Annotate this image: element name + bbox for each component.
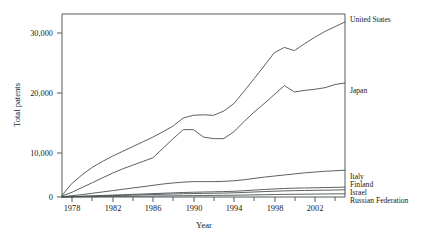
x-tick-label-1994: 1994: [226, 204, 243, 213]
y-tick-label-0: 0: [49, 193, 53, 202]
x-tick-label-1990: 1990: [186, 204, 203, 213]
series-line-united-states: [62, 22, 345, 195]
series-label-japan: Japan: [350, 86, 367, 95]
y-tick-label-10000: 10,000: [30, 149, 53, 158]
y-axis-ticks: [57, 33, 62, 197]
x-axis-ticks: [72, 197, 335, 202]
series-line-japan: [62, 83, 345, 196]
series-line-italy: [62, 170, 345, 196]
plot-frame: [62, 14, 345, 197]
x-axis-title: Year: [196, 220, 212, 230]
line-chart-svg: 30,000 20,000 10,000 0 Total patents 197…: [0, 0, 431, 244]
y-tick-label-30000: 30,000: [30, 29, 53, 38]
y-tick-label-20000: 20,000: [30, 89, 53, 98]
series-group: [62, 22, 345, 197]
x-tick-label-1978: 1978: [64, 204, 81, 213]
x-tick-label-1982: 1982: [105, 204, 122, 213]
x-tick-label-1986: 1986: [145, 204, 162, 213]
x-tick-label-1998: 1998: [267, 204, 284, 213]
x-tick-label-2002: 2002: [307, 204, 324, 213]
y-axis-title: Total patents: [12, 82, 22, 127]
chart-figure: 30,000 20,000 10,000 0 Total patents 197…: [0, 0, 431, 244]
series-label-russian-federation: Russian Federation: [350, 196, 409, 205]
series-label-united-states: United States: [350, 15, 391, 24]
